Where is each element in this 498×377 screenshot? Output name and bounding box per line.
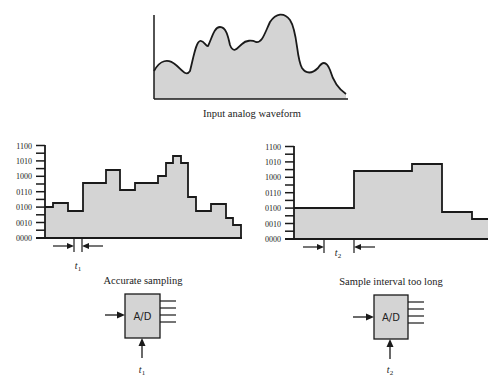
y-label-1100: 1100	[265, 143, 281, 152]
y-label-1000: 1000	[16, 172, 32, 181]
adc-clock-arrow-left	[139, 338, 146, 358]
accurate-caption: Accurate sampling	[103, 275, 183, 286]
y-label-1000: 1000	[265, 173, 281, 182]
y-label-0100: 0100	[265, 204, 281, 213]
y-label-0110: 0110	[265, 189, 281, 198]
long-y-ticks	[285, 147, 294, 232]
y-label-0100: 0100	[16, 203, 32, 212]
interval-label-t2: t2	[335, 247, 342, 260]
y-label-0000: 0000	[265, 235, 281, 244]
interval-marker-t2	[303, 239, 375, 253]
interval-label-t1: t1	[75, 260, 82, 273]
diagram-canvas: Input analog waveform 1100 1010 1000 011…	[0, 0, 498, 377]
y-label-1100: 1100	[16, 142, 32, 151]
long-y-labels: 1100 1010 1000 0110 0100 0010 0000	[265, 143, 281, 244]
y-label-1010: 1010	[16, 157, 32, 166]
y-label-0110: 0110	[16, 188, 32, 197]
interval-marker-t1	[53, 238, 103, 252]
long-interval-chart: 1100 1010 1000 0110 0100 0010 0000 t2 Sa…	[265, 143, 488, 287]
y-label-0010: 0010	[265, 220, 281, 229]
long-interval-steps-area	[294, 164, 488, 239]
adc-input-arrow-right	[353, 314, 374, 321]
adc-clock-label-right: t2	[387, 364, 394, 377]
adc-label-left: A/D	[134, 311, 152, 322]
adc-block-right: A/D t2	[353, 295, 424, 377]
adc-clock-label-left: t1	[139, 364, 146, 377]
analog-waveform-chart: Input analog waveform	[154, 15, 348, 119]
long-interval-caption: Sample interval too long	[339, 276, 443, 287]
accurate-steps-area	[45, 156, 241, 238]
y-label-0000: 0000	[16, 234, 32, 243]
accurate-y-labels: 1100 1010 1000 0110 0100 0010 0000	[16, 142, 32, 243]
adc-input-arrow-left	[105, 312, 125, 319]
adc-output-lines-left	[160, 301, 176, 322]
y-label-0010: 0010	[16, 219, 32, 228]
adc-label-right: A/D	[382, 312, 400, 323]
adc-block-left: A/D t1	[105, 294, 176, 377]
accurate-y-ticks	[36, 146, 45, 231]
adc-clock-arrow-right	[387, 339, 394, 359]
analog-waveform-area	[154, 15, 346, 99]
adc-output-lines-right	[408, 302, 424, 323]
analog-caption: Input analog waveform	[203, 108, 301, 119]
y-label-1010: 1010	[265, 158, 281, 167]
accurate-sampling-chart: 1100 1010 1000 0110 0100 0010 0000 t1 Ac…	[16, 142, 242, 286]
